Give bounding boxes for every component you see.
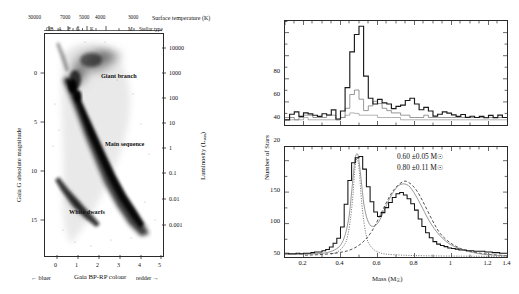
stellar-type-G: G: [76, 27, 80, 32]
hr-y-axis-ticks: [38, 33, 45, 255]
lum-tick-10: 10: [169, 120, 175, 126]
mass-xtick-1: 1: [440, 260, 461, 267]
bottom-ytick-50: 50: [260, 250, 280, 257]
hr-ytick-0: 0: [29, 70, 37, 76]
mass-x-axis-label: Mass (M☉): [372, 276, 403, 284]
hr-diagram-panel: 30000 7000 5000 4000 3000 Surface temper…: [0, 0, 256, 294]
top-histogram-plot-area: [284, 20, 508, 126]
lum-tick-1: 1: [169, 145, 172, 151]
annotation-mass-060: 0.60 ±0.05 M☉: [397, 153, 443, 160]
top-ytick-40: 40: [260, 114, 280, 121]
lum-tick-0.001: 0.001: [169, 222, 183, 228]
temp-tick-7000: 7000: [60, 15, 70, 20]
mass-distribution-panel: Number of Stars: [256, 0, 519, 294]
hr-luminosity-ticks: [162, 33, 169, 255]
gaussian-fit-080: [305, 181, 507, 256]
hr-x-axis-ticks: [44, 255, 162, 261]
bottom-ytick-150: 150: [256, 187, 280, 194]
hr-xtick-3: 3: [117, 262, 120, 268]
hr-bluer-note: ← bluer: [31, 275, 51, 281]
lum-tick-100: 100: [169, 95, 178, 101]
temp-tick-30000: 30000: [28, 15, 41, 20]
gaussian-fit-060: [331, 158, 507, 256]
mass-xtick-0.2: 0.2: [292, 260, 313, 267]
annotation-giant-branch: Giant branch: [101, 73, 137, 79]
hr-xtick-5: 5: [158, 262, 161, 268]
mass-xtick-0.8: 0.8: [403, 260, 424, 267]
lum-tick-0.01: 0.01: [169, 196, 180, 202]
stellar-type-A: A: [58, 27, 62, 32]
mass-label-close: ): [400, 275, 402, 282]
mass-label-main: Mass (M: [372, 275, 396, 282]
hr-ytick-5: 5: [29, 119, 37, 125]
top-ytick-60: 60: [260, 91, 280, 98]
hr-x-axis-label: Gaia BP-RP colour: [74, 274, 126, 281]
stellar-type-B: B: [50, 27, 53, 32]
top-ytick-20: 20: [260, 137, 280, 144]
mass-xtick-0.6: 0.6: [366, 260, 387, 267]
annotation-white-dwarfs: White dwarfs: [69, 209, 105, 215]
stellar-type-K: K: [90, 27, 94, 32]
temp-tick-3000: 3000: [128, 15, 138, 20]
mass-xtick-1.4: 1.4: [496, 260, 517, 267]
stellar-type-M: M: [128, 27, 133, 32]
bottom-histogram-plot-area: 0.60 ±0.05 M☉ 0.80 ±0.11 M☉: [284, 146, 508, 258]
top-histogram-svg: [285, 21, 507, 125]
lum-label-main: Luminosity (L: [199, 141, 206, 180]
top-ytick-80: 80: [260, 68, 280, 75]
hr-redder-note: redder →: [136, 275, 159, 281]
annotation-mass-080: 0.80 ±0.11 M☉: [397, 164, 443, 171]
lum-label-sub: sun: [202, 134, 207, 140]
bottom-ytick-100: 100: [256, 218, 280, 225]
top-hist-total: [285, 26, 507, 120]
hr-xtick-1: 1: [75, 262, 78, 268]
lum-tick-10000: 10000: [169, 45, 184, 51]
lum-tick-0.1: 0.1: [169, 170, 177, 176]
surface-temperature-axis-label: Surface temperature (K): [152, 15, 210, 21]
temp-tick-4000: 4000: [95, 15, 105, 20]
hr-diagram-plot-area: Giant branch Main sequence White dwarfs: [44, 33, 164, 257]
hr-y-axis-label: Gaia G absolute magnitude: [16, 128, 23, 202]
hr-luminosity-axis-label: Luminosity (Lsun): [200, 132, 208, 180]
lum-label-close: ): [199, 132, 206, 134]
hr-xtick-2: 2: [96, 262, 99, 268]
lum-tick-1000: 1000: [169, 70, 181, 76]
temp-tick-5000: 5000: [79, 15, 89, 20]
bottom-histogram-svg: [285, 147, 507, 257]
figure-root: 30000 7000 5000 4000 3000 Surface temper…: [0, 0, 519, 294]
mass-xtick-1.2: 1.2: [477, 260, 498, 267]
bottom-hist-observed: [285, 157, 507, 254]
top-hist-component-a: [285, 90, 507, 120]
annotation-main-sequence: Main sequence: [105, 141, 144, 147]
mass-xtick-0.4: 0.4: [329, 260, 350, 267]
hr-ytick-10: 10: [25, 168, 37, 174]
combined-fit: [285, 154, 507, 256]
stellar-type-axis-label: Stellar type: [139, 27, 163, 32]
hr-ytick-15: 15: [25, 217, 37, 223]
hr-xtick-0: 0: [54, 262, 57, 268]
stellar-type-F: F: [68, 27, 71, 32]
hr-xtick-4: 4: [138, 262, 141, 268]
star-density-cloud: [45, 34, 163, 256]
